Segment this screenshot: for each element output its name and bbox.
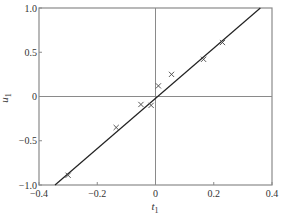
data-markers [66, 40, 226, 178]
y-tick-label: −1.0 [19, 180, 37, 191]
x-marker [149, 103, 154, 108]
y-axis-label: u1 [0, 93, 13, 103]
x-marker [156, 83, 161, 88]
x-tick-label: −0.2 [88, 188, 106, 199]
x-marker [169, 72, 174, 77]
y-tick-label: 0.5 [25, 47, 38, 58]
x-tick-label: 0 [153, 188, 158, 199]
x-axis-label: t1 [151, 200, 158, 215]
scatter-chart: −0.4−0.200.20.4 −1.0−0.500.51.0 t1 u1 [0, 0, 285, 220]
y-tick-label: 0 [32, 91, 37, 102]
x-marker [114, 125, 119, 130]
x-tick-label: 0.4 [266, 188, 279, 199]
zero-lines [39, 8, 272, 185]
y-tick-label: −0.5 [19, 135, 37, 146]
x-tick-label: 0.2 [208, 188, 221, 199]
x-marker [138, 102, 143, 107]
y-tick-label: 1.0 [25, 3, 38, 14]
